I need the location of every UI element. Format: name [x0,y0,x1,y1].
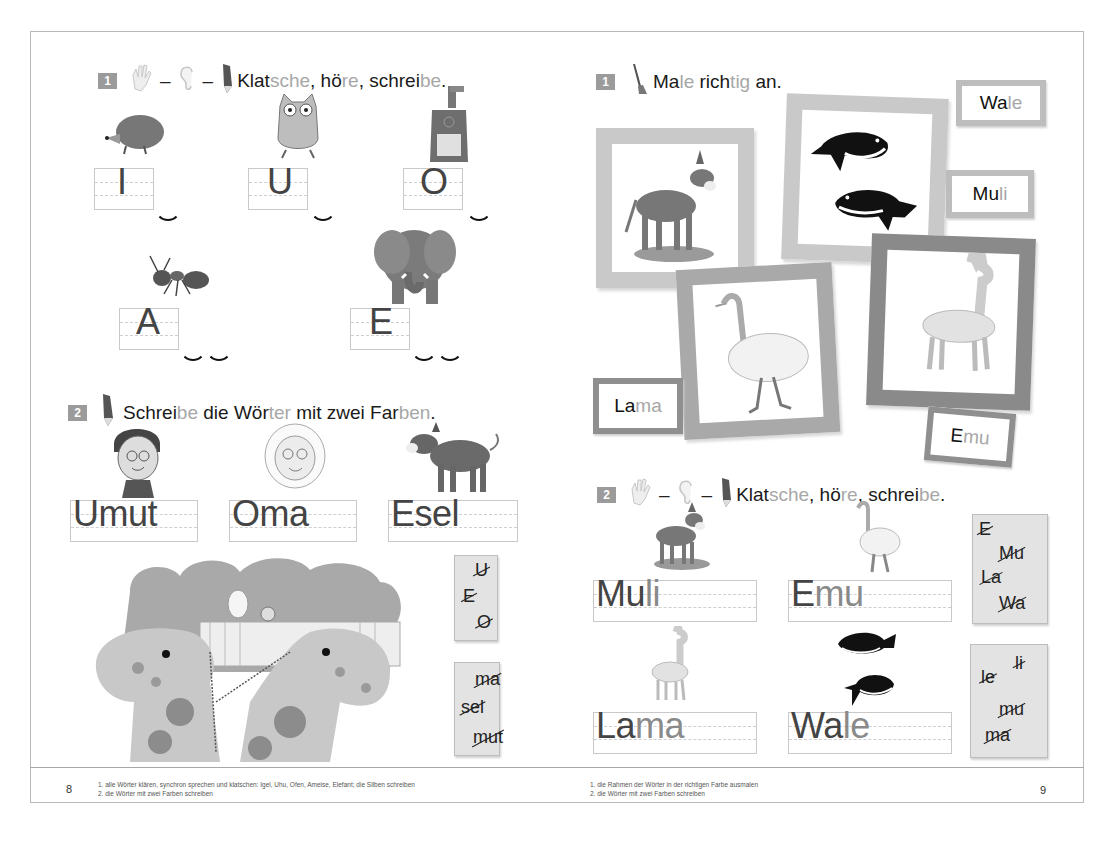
giraffe-zoo-scene [90,552,430,766]
frame-emu[interactable] [676,262,841,440]
writing-line-umut[interactable]: Umut [70,500,198,542]
word-card-lama[interactable]: Lama [593,378,683,434]
right-footer-notes: 1. die Rahmen der Wörter in der richtige… [590,780,758,798]
left-footer-notes: 1. alle Wörter klären, synchron sprechen… [98,780,415,798]
ant-picture [146,254,212,304]
task-number-badge: 2 [597,487,616,503]
elephant-picture [368,222,460,312]
pencil-icon [220,62,234,99]
hedgehog-picture [104,108,166,162]
frame-donkey[interactable] [596,128,754,288]
writing-line-emu[interactable]: Emu [788,580,952,622]
writing-line-lama[interactable]: Lama [593,712,757,754]
task-number-badge: 1 [596,74,615,90]
syllable-box-lowercase: ma sel mut [454,662,500,756]
writing-line-oma[interactable]: Oma [229,500,357,542]
writing-box-U[interactable]: U [248,168,308,210]
emu-picture [844,498,904,580]
paintbrush-icon [629,62,649,101]
clapping-hands-icon [131,63,153,98]
task-number-badge: 1 [98,73,117,89]
boy-picture [104,422,170,502]
page-number-right: 9 [1040,784,1046,796]
whales-picture [834,626,904,712]
syllable-box-capitals: U E O [454,555,498,641]
writing-line-muli[interactable]: Muli [593,580,757,622]
writing-box-I[interactable]: I [94,168,154,210]
task-number-badge: 2 [68,405,87,421]
emu-picture [692,279,823,423]
writing-box-E[interactable]: E [350,308,410,350]
writing-box-O[interactable]: O [403,168,463,210]
pencil-icon [719,476,733,513]
word-card-muli[interactable]: Muli [946,170,1034,218]
donkey-picture [612,144,738,272]
stove-picture [428,86,470,168]
frame-llama[interactable] [866,233,1036,411]
writing-line-wale[interactable]: Wale [788,712,952,754]
owl-picture [270,92,326,164]
word-card-emu[interactable]: Emu [924,406,1016,467]
page-number-left: 8 [66,783,72,795]
word-card-wale[interactable]: Wale [956,80,1046,126]
syllable-box-lowercase: li le mu ma [970,644,1048,758]
grandma-picture [262,422,328,498]
mule-picture [642,502,714,576]
llama-picture [648,626,694,706]
ear-icon [178,64,196,97]
donkey-picture [398,420,504,500]
syllable-box-capitals: E Mu La Wa [972,514,1048,624]
llama-picture [883,250,1020,395]
whales-picture [798,110,933,248]
writing-box-A[interactable]: A [119,308,179,350]
writing-line-esel[interactable]: Esel [388,500,518,542]
footer-divider [30,767,1084,768]
right-task1-instruction: 1 Male richtig an. [596,62,782,101]
